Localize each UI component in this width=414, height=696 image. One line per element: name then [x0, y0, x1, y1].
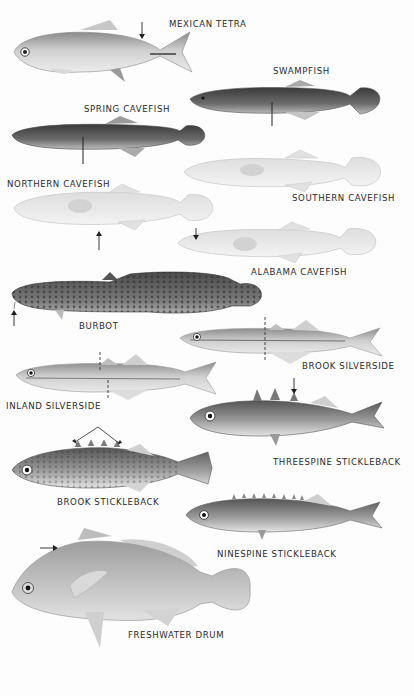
fish-mexican-tetra: [14, 20, 192, 82]
label-southern-cavefish: SOUTHERN CAVEFISH: [292, 193, 395, 203]
label-inland-silverside: INLAND SILVERSIDE: [6, 401, 101, 411]
fish-southern-cavefish: [184, 150, 381, 192]
fish-alabama-cavefish: [178, 222, 376, 263]
fish-identification-plate: MEXICAN TETRA SWAMPFISH SPRING CAVEFISH …: [0, 0, 414, 696]
label-threespine-stickleback: THREESPINE STICKLEBACK: [273, 457, 401, 467]
label-freshwater-drum: FRESHWATER DRUM: [128, 630, 224, 640]
fish-ninespine-stickleback: [186, 493, 382, 540]
fish-inland-silverside: [16, 352, 216, 400]
fish-brook-silverside: [180, 317, 382, 364]
label-mexican-tetra: MEXICAN TETRA: [169, 19, 247, 29]
label-alabama-cavefish: ALABAMA CAVEFISH: [251, 267, 347, 277]
label-spring-cavefish: SPRING CAVEFISH: [84, 104, 170, 114]
label-brook-silverside: BROOK SILVERSIDE: [302, 361, 395, 371]
fish-brook-stickleback: [12, 427, 212, 492]
label-swampfish: SWAMPFISH: [273, 66, 330, 76]
label-brook-stickleback: BROOK STICKLEBACK: [57, 497, 159, 507]
fish-spring-cavefish: [12, 116, 205, 164]
label-burbot: BURBOT: [79, 321, 119, 331]
fish-threespine-stickleback: [190, 378, 384, 446]
fish-illustrations: [0, 0, 414, 696]
label-ninespine-stickleback: NINESPINE STICKLEBACK: [217, 549, 337, 559]
fish-swampfish: [190, 80, 380, 126]
fish-burbot: [11, 272, 261, 326]
label-northern-cavefish: NORTHERN CAVEFISH: [7, 179, 110, 189]
